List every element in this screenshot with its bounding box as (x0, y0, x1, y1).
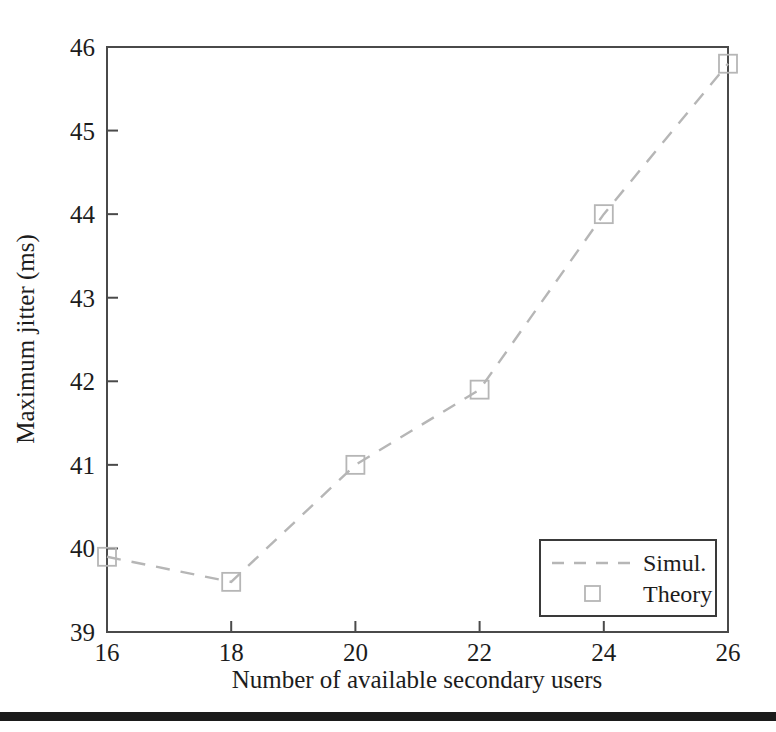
y-axis-ticks (107, 131, 118, 549)
x-axis-tick-labels: 161820222426 (95, 639, 741, 666)
x-tick-label: 26 (716, 639, 741, 666)
jitter-line-chart: 3940414243444546 161820222426 Number of … (0, 0, 776, 732)
x-tick-label: 24 (591, 639, 617, 666)
y-axis-tick-labels: 3940414243444546 (70, 34, 96, 646)
x-axis-title: Number of available secondary users (232, 666, 603, 693)
data-point-marker (471, 381, 489, 399)
x-tick-label: 20 (343, 639, 368, 666)
y-tick-label: 40 (70, 535, 95, 562)
legend-label-simul: Simul. (643, 550, 706, 576)
y-tick-label: 39 (70, 619, 95, 646)
series-theory-markers (98, 55, 737, 591)
y-tick-label: 42 (70, 368, 95, 395)
y-tick-label: 46 (70, 34, 95, 61)
bottom-rule (0, 712, 776, 721)
legend: Simul. Theory (540, 540, 716, 616)
y-tick-label: 45 (70, 118, 95, 145)
y-tick-label: 44 (70, 201, 96, 228)
figure-container: 3940414243444546 161820222426 Number of … (0, 0, 776, 732)
legend-label-theory: Theory (643, 581, 712, 607)
x-tick-label: 18 (219, 639, 244, 666)
y-axis-title: Maximum jitter (ms) (12, 234, 40, 444)
y-tick-label: 41 (70, 452, 95, 479)
series-simul-line (107, 64, 728, 582)
x-axis-ticks (231, 621, 604, 632)
x-tick-label: 16 (95, 639, 120, 666)
x-tick-label: 22 (467, 639, 492, 666)
y-tick-label: 43 (70, 285, 95, 312)
